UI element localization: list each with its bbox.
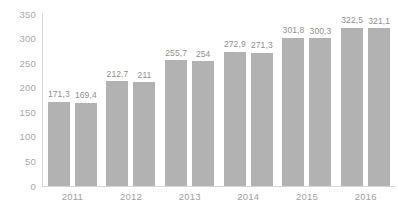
bar-group: 272,9271,3 — [219, 14, 278, 186]
bar-value-label: 272,9 — [224, 40, 246, 49]
y-tick-label: 200 — [20, 83, 36, 93]
y-tick-label: 100 — [20, 132, 36, 142]
bar: 301,8 — [282, 14, 304, 186]
y-tick-label: 0 — [31, 182, 36, 192]
bar: 271,3 — [251, 14, 273, 186]
bar-group: 301,8300,3 — [278, 14, 337, 186]
bar-rect — [192, 61, 214, 186]
bar-rect — [282, 38, 304, 186]
bar-value-label: 300,3 — [310, 27, 332, 36]
bar-value-label: 301,8 — [283, 26, 305, 35]
bar-rect — [165, 60, 187, 186]
y-tick-label: 250 — [20, 59, 36, 69]
y-tick-label: 50 — [25, 157, 36, 167]
bar-value-label: 171,3 — [48, 90, 70, 99]
bar: 255,7 — [165, 14, 187, 186]
bar: 272,9 — [224, 14, 246, 186]
y-tick-label: 300 — [20, 34, 36, 44]
x-tick-label: 2016 — [355, 192, 377, 202]
x-tick-label: 2015 — [296, 192, 318, 202]
bar-value-label: 271,3 — [251, 41, 273, 50]
bar: 169,4 — [75, 14, 97, 186]
bar-rect — [368, 28, 390, 186]
x-axis-category-labels: 201120122013201420152016 — [43, 192, 395, 210]
bar-rect — [251, 53, 273, 186]
bar-value-label: 321,1 — [368, 17, 390, 26]
bar-rect — [309, 38, 331, 186]
bar-value-label: 211 — [138, 71, 152, 80]
bar-rect — [75, 103, 97, 186]
bar-rect — [106, 81, 128, 186]
bar-value-label: 212,7 — [107, 70, 129, 79]
bar-group: 212,7211 — [102, 14, 161, 186]
y-axis-tick-labels: 350300250200150100500 — [0, 0, 36, 214]
plot-area: 171,3169,4212,7211255,7254272,9271,3301,… — [43, 14, 395, 186]
bar-value-label: 322,5 — [341, 16, 363, 25]
bar-chart: 350300250200150100500 171,3169,4212,7211… — [0, 0, 398, 214]
y-tick-label: 150 — [20, 108, 36, 118]
bar: 300,3 — [309, 14, 331, 186]
bar: 321,1 — [368, 14, 390, 186]
bar-rect — [224, 52, 246, 186]
x-tick-label: 2013 — [179, 192, 201, 202]
bar: 322,5 — [341, 14, 363, 186]
bar: 211 — [133, 14, 155, 186]
bar-value-label: 255,7 — [165, 49, 187, 58]
bar: 171,3 — [48, 14, 70, 186]
y-tick-label: 350 — [20, 10, 36, 20]
x-tick-label: 2014 — [237, 192, 259, 202]
x-tick-label: 2012 — [120, 192, 142, 202]
bar: 212,7 — [106, 14, 128, 186]
x-tick-label: 2011 — [62, 192, 83, 202]
bar-group: 171,3169,4 — [43, 14, 102, 186]
bar-rect — [48, 102, 70, 186]
bar-group: 255,7254 — [160, 14, 219, 186]
bar-value-label: 169,4 — [75, 91, 97, 100]
bar-group: 322,5321,1 — [336, 14, 395, 186]
bar-rect — [133, 82, 155, 186]
bar: 254 — [192, 14, 214, 186]
x-axis-line — [42, 186, 395, 187]
bar-value-label: 254 — [196, 50, 210, 59]
bar-rect — [341, 28, 363, 186]
